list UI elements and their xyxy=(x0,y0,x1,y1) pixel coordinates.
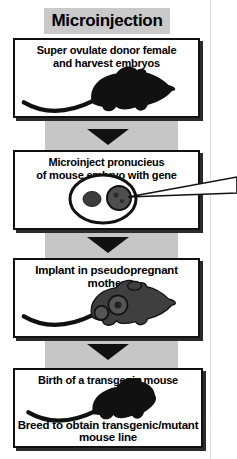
down-arrow-icon-1 xyxy=(87,129,129,145)
step-2-caption-line-1: Microinject pronucieus xyxy=(15,156,198,169)
down-arrow-icon-3 xyxy=(87,344,129,360)
transgenic-mouse-icon xyxy=(25,378,195,428)
step-1-caption-line-1: Super ovulate donor female xyxy=(15,44,198,57)
diagram-title: Microinjection xyxy=(44,8,170,34)
microinjection-flowchart: Microinjection Super ovulate donor femal… xyxy=(0,0,237,459)
micropipette-icon xyxy=(118,168,237,204)
page-fold-line xyxy=(210,0,211,459)
pregnant-mouse-icon xyxy=(20,278,195,332)
step-4-caption-line-3: mouse line xyxy=(15,431,201,443)
down-arrow-icon-2 xyxy=(87,237,129,253)
donor-mouse-icon xyxy=(20,64,195,118)
